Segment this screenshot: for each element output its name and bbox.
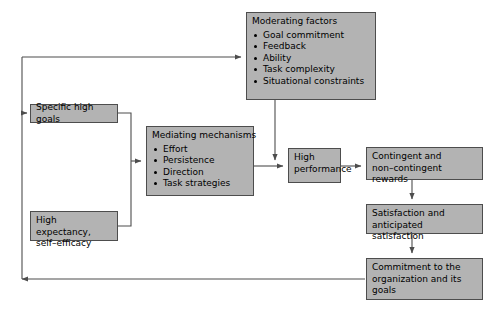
- node-commitment-label: Commitment to the organization and its g…: [372, 262, 461, 297]
- list-item: Effort: [152, 144, 248, 156]
- node-moderating-factors-list: Goal commitment Feedback Ability Task co…: [252, 30, 370, 88]
- node-high-performance-label: High performance: [294, 152, 352, 175]
- node-moderating-factors[interactable]: Moderating factors Goal commitment Feedb…: [246, 12, 376, 100]
- node-mediating-mechanisms-title: Mediating mechanisms: [152, 130, 248, 142]
- node-high-expectancy-label: High expectancy, self–efficacy: [36, 215, 112, 250]
- list-item: Task strategies: [152, 178, 248, 190]
- node-satisfaction-label: Satisfaction and anticipated satisfactio…: [372, 208, 477, 243]
- list-item: Goal commitment: [252, 30, 370, 42]
- node-high-performance[interactable]: High performance: [288, 148, 341, 183]
- list-item: Situational constraints: [252, 76, 370, 88]
- node-high-expectancy[interactable]: High expectancy, self–efficacy: [30, 211, 118, 241]
- list-item: Persistence: [152, 155, 248, 167]
- node-satisfaction[interactable]: Satisfaction and anticipated satisfactio…: [366, 204, 483, 234]
- node-specific-high-goals-label: Specific high goals: [36, 102, 112, 125]
- edge-high-expectancy-to-junction: [118, 161, 131, 226]
- list-item: Feedback: [252, 41, 370, 53]
- node-commitment[interactable]: Commitment to the organization and its g…: [366, 258, 483, 300]
- node-moderating-factors-title: Moderating factors: [252, 16, 370, 28]
- node-specific-high-goals[interactable]: Specific high goals: [30, 104, 118, 123]
- node-contingent-rewards-label: Contingent and non–contingent rewards: [372, 151, 477, 186]
- list-item: Ability: [252, 53, 370, 65]
- node-mediating-mechanisms-list: Effort Persistence Direction Task strate…: [152, 144, 248, 190]
- edge-specific-high-goals-to-junction: [118, 113, 131, 161]
- list-item: Task complexity: [252, 64, 370, 76]
- list-item: Direction: [152, 167, 248, 179]
- node-contingent-rewards[interactable]: Contingent and non–contingent rewards: [366, 147, 483, 180]
- node-mediating-mechanisms[interactable]: Mediating mechanisms Effort Persistence …: [146, 126, 254, 196]
- flowchart-diagram: Moderating factors Goal commitment Feedb…: [0, 0, 492, 311]
